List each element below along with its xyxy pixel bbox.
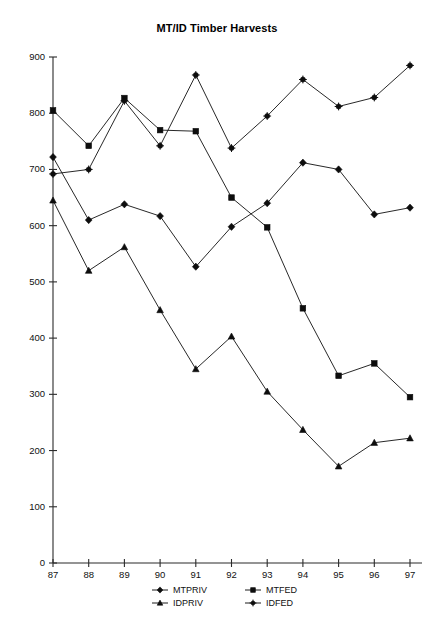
x-tick-label: 90 [155, 569, 166, 580]
x-tick-label: 94 [298, 569, 309, 580]
x-tick-label: 88 [83, 569, 94, 580]
data-point [229, 195, 235, 201]
y-tick-label: 0 [40, 557, 45, 568]
x-tick-label: 95 [333, 569, 344, 580]
data-point [85, 216, 92, 223]
data-point [193, 128, 199, 134]
data-series-group [49, 62, 414, 469]
data-point [300, 306, 306, 312]
y-tick-label: 100 [29, 501, 45, 512]
x-tick-label: 91 [191, 569, 202, 580]
data-point [50, 197, 57, 203]
data-point [85, 166, 93, 174]
y-tick-label: 400 [29, 332, 45, 343]
data-point [335, 103, 343, 111]
chart-figure: MT/ID Timber Harvests 010020030040050060… [0, 0, 434, 638]
legend-marker [157, 587, 163, 593]
data-point [85, 267, 92, 273]
data-point [264, 388, 271, 394]
legend-entry-mtpriv[interactable]: MTPRIV [152, 585, 207, 595]
y-tick-label: 200 [29, 445, 45, 456]
chart-plot-area: 0100200300400500600700800900 87888990919… [0, 0, 434, 638]
series-idfed [49, 62, 414, 178]
x-tick-label: 87 [48, 569, 59, 580]
x-tick-label: 97 [405, 569, 416, 580]
y-tick-label: 800 [29, 107, 45, 118]
data-point [228, 333, 235, 339]
legend-label: IDFED [266, 598, 294, 608]
data-point [336, 373, 342, 379]
data-point [264, 225, 270, 231]
x-tick-label: 93 [262, 569, 273, 580]
data-point [121, 244, 128, 250]
legend-marker [250, 600, 257, 607]
series-idpriv [50, 197, 414, 469]
legend-label: IDPRIV [173, 598, 203, 608]
x-axis-ticks: 8788899091929394959697 [48, 559, 416, 580]
data-point [372, 361, 378, 367]
legend-label: MTPRIV [173, 585, 207, 595]
y-tick-label: 500 [29, 276, 45, 287]
axes [53, 57, 422, 563]
y-tick-label: 600 [29, 220, 45, 231]
legend-label: MTFED [266, 585, 297, 595]
legend-marker [251, 588, 256, 593]
data-point [157, 213, 164, 220]
data-point [407, 394, 413, 400]
data-point [50, 108, 56, 114]
y-tick-label: 700 [29, 163, 45, 174]
legend-entry-idfed[interactable]: IDFED [245, 598, 294, 608]
data-point [192, 71, 200, 79]
data-point [407, 435, 414, 441]
legend-entry-idpriv[interactable]: IDPRIV [152, 598, 203, 608]
data-point [86, 143, 92, 149]
y-tick-label: 900 [29, 51, 45, 62]
data-point [157, 307, 164, 313]
data-point [121, 201, 128, 208]
y-tick-label: 300 [29, 388, 45, 399]
data-point [50, 153, 57, 160]
data-point [157, 127, 163, 133]
x-tick-label: 96 [369, 569, 380, 580]
series-mtpriv [50, 153, 414, 270]
chart-legend: MTPRIVMTFEDIDPRIVIDFED [152, 585, 297, 608]
series-mtfed [50, 95, 413, 400]
legend-entry-mtfed[interactable]: MTFED [245, 585, 297, 595]
x-tick-label: 92 [226, 569, 237, 580]
x-tick-label: 89 [119, 569, 130, 580]
data-point [49, 170, 57, 178]
data-point [407, 204, 414, 211]
